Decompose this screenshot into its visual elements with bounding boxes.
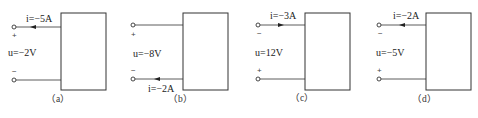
current-arrow-icon — [30, 25, 36, 29]
current-label: i=−3A — [270, 10, 297, 21]
bottom-terminal — [256, 77, 260, 81]
current-label: i=−2A — [148, 83, 175, 94]
panel-d: i=−2A − u=−5V + （d） — [376, 10, 471, 104]
top-terminal — [377, 23, 381, 27]
panel-caption: （b） — [168, 93, 193, 104]
bottom-polarity: − — [12, 67, 17, 76]
top-terminal — [131, 23, 135, 27]
current-arrow-icon — [399, 23, 405, 27]
bottom-polarity: + — [377, 66, 382, 75]
element-box — [426, 13, 471, 90]
voltage-label: u=−8V — [133, 48, 162, 59]
voltage-label: u=−5V — [376, 47, 405, 58]
panel-b: + u=−8V − i=−2A （b） — [131, 13, 228, 104]
bottom-terminal — [12, 78, 16, 82]
panel-caption: （d） — [412, 93, 437, 104]
top-polarity: − — [257, 29, 262, 38]
top-terminal — [12, 25, 16, 29]
current-label: i=−2A — [393, 10, 420, 21]
element-box — [61, 13, 106, 90]
current-label: i=−5A — [26, 13, 53, 24]
panel-c: i=−3A − u=12V + （c） — [255, 10, 350, 103]
voltage-label: u=12V — [255, 47, 284, 58]
top-terminal — [256, 23, 260, 27]
bottom-terminal — [131, 77, 135, 81]
bottom-polarity: − — [131, 66, 136, 75]
panel-a: i=−5A + u=−2V − （a） — [8, 13, 106, 104]
voltage-label: u=−2V — [8, 47, 37, 58]
top-polarity: + — [12, 31, 17, 40]
element-box — [305, 13, 350, 90]
bottom-polarity: + — [257, 66, 262, 75]
element-box — [183, 13, 228, 90]
circuit-diagram: i=−5A + u=−2V − （a） + u=−8V − i=−2A （b） … — [0, 0, 478, 118]
bottom-terminal — [377, 77, 381, 81]
top-polarity: + — [131, 30, 136, 39]
panel-caption: （a） — [46, 93, 70, 104]
panel-caption: （c） — [290, 92, 314, 103]
current-arrow-icon — [154, 77, 160, 81]
current-arrow-icon — [278, 23, 284, 27]
top-polarity: − — [378, 29, 383, 38]
